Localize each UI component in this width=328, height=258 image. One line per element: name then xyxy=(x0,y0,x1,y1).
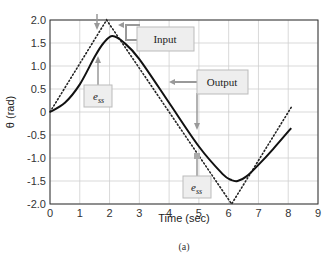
y-tick-label: 1.0 xyxy=(31,60,46,72)
y-tick-label: 0 xyxy=(40,106,46,118)
y-tick-label: -1.0 xyxy=(27,152,46,164)
ess-top-arrow xyxy=(94,14,100,30)
y-tick-label: 2.0 xyxy=(31,14,46,26)
input-arrow-head-icon xyxy=(118,22,124,28)
x-tick-label: 1 xyxy=(77,207,83,219)
x-tick-label: 2 xyxy=(106,207,112,219)
y-tick-label: -1.5 xyxy=(27,175,46,187)
y-axis-label: θ (rad) xyxy=(4,96,16,128)
x-tick-label: 7 xyxy=(255,207,261,219)
output-arrow-head-icon xyxy=(169,79,175,85)
y-tick-label: -0.5 xyxy=(27,129,46,141)
ess-1-arrow-icon xyxy=(95,56,101,63)
ess-2-marker-icon xyxy=(194,153,200,159)
output-label: Output xyxy=(207,76,238,88)
step-response-chart: 2.01.51.00.50-0.5-1.0-1.5-2.0 0123456789… xyxy=(0,0,328,258)
ess-annotation-2: ess xyxy=(183,153,211,198)
x-tick-label: 6 xyxy=(226,207,232,219)
y-tick-label: 0.5 xyxy=(31,83,46,95)
x-tick-label: 3 xyxy=(136,207,142,219)
input-label: Input xyxy=(153,33,176,45)
x-tick-label: 9 xyxy=(315,207,321,219)
x-tick-label: 0 xyxy=(47,207,53,219)
y-tick-label: -2.0 xyxy=(27,198,46,210)
x-tick-label: 8 xyxy=(285,207,291,219)
x-axis-label: Time (sec) xyxy=(158,212,210,224)
figure-caption: (a) xyxy=(178,241,189,253)
output-series-line xyxy=(50,36,291,181)
y-tick-label: 1.5 xyxy=(31,37,46,49)
ess-annotation-1: ess xyxy=(84,56,112,107)
y-axis-ticks: 2.01.51.00.50-0.5-1.0-1.5-2.0 xyxy=(27,14,46,210)
